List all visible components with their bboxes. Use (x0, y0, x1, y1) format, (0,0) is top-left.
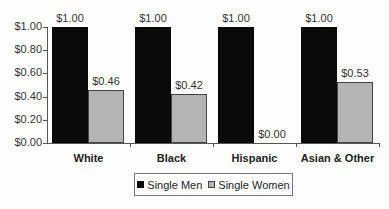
legend-item-single-men: Single Men (137, 179, 202, 191)
data-label: $0.42 (164, 79, 214, 91)
legend: Single Men Single Women (134, 173, 293, 196)
x-tick (296, 143, 297, 147)
bar-single-men (218, 27, 254, 143)
data-label: $1.00 (45, 12, 95, 24)
y-tick-label: $0.00 (14, 136, 42, 148)
y-tick-label: $1.00 (14, 20, 42, 32)
data-label: $0.53 (330, 67, 380, 79)
bar-single-women (337, 82, 373, 143)
x-tick (130, 143, 131, 147)
category-label: White (47, 152, 130, 164)
y-tick-label: $0.60 (14, 66, 42, 78)
y-tick-label: $0.40 (14, 90, 42, 102)
legend-item-single-women: Single Women (208, 179, 289, 191)
x-tick (213, 143, 214, 147)
x-tick (379, 143, 380, 147)
legend-swatch-black (137, 181, 144, 188)
category-label: Hispanic (213, 152, 296, 164)
y-tick-label: $0.80 (14, 43, 42, 55)
category-label: Asian & Other (296, 152, 379, 164)
legend-label: Single Women (218, 179, 289, 191)
category-label: Black (130, 152, 213, 164)
data-label: $1.00 (294, 12, 344, 24)
data-label: $1.00 (211, 12, 261, 24)
legend-swatch-gray (208, 181, 215, 188)
data-label: $0.46 (81, 75, 131, 87)
legend-label: Single Men (147, 179, 202, 191)
data-label: $1.00 (128, 12, 178, 24)
y-tick-label: $0.20 (14, 113, 42, 125)
bar-single-women (171, 94, 207, 143)
bar-single-women (88, 90, 124, 143)
y-axis (47, 27, 48, 144)
data-label: $0.00 (247, 128, 297, 140)
bar-chart: $0.00$0.20$0.40$0.60$0.80$1.00 $1.00$0.4… (0, 0, 389, 209)
bar-single-men (301, 27, 337, 143)
